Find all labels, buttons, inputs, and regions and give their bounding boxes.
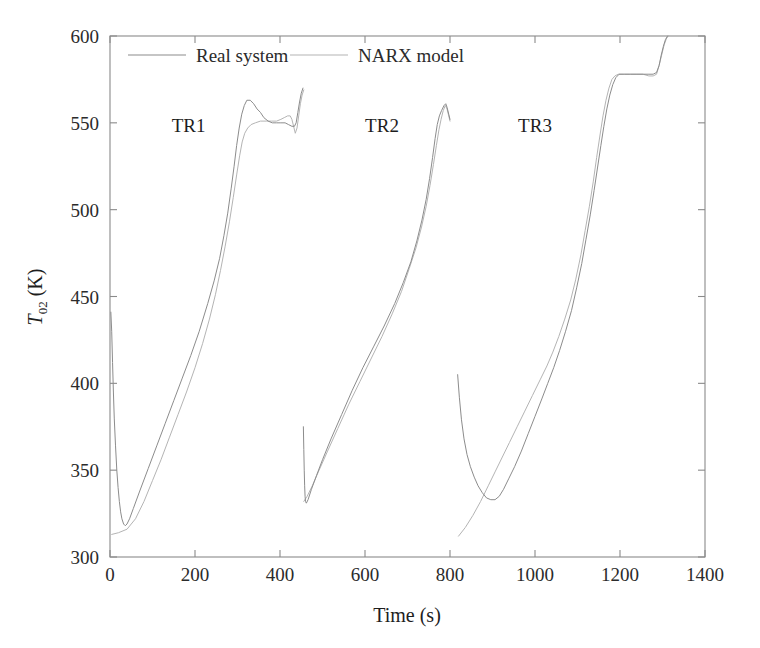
y-axis-title: T02 (K) [24,269,50,326]
y-tick-label: 550 [71,113,100,134]
annotation-tr1: TR1 [172,115,206,136]
annotation-tr3: TR3 [518,115,552,136]
series-annotations-group: TR1TR2TR3 [172,115,552,136]
y-tick-label: 500 [71,200,100,221]
data-line-tr1 [112,90,304,535]
y-tick-label: 350 [71,460,100,481]
annotation-tr2: TR2 [365,115,399,136]
x-axis-title: Time (s) [373,604,441,627]
y-tick-label: 400 [71,373,100,394]
legend-label-narx-model: NARX model [358,45,464,66]
x-tick-label: 1400 [686,564,724,585]
chart-canvas: 0200400600800100012001400 30035040045050… [0,0,760,648]
y-axis-title-subscript: 02 [35,301,50,314]
y-tick-label: 600 [71,26,100,47]
legend: Real systemNARX model [128,45,464,66]
y-tick-label: 300 [71,547,100,568]
figure-container: 0200400600800100012001400 30035040045050… [0,0,760,648]
x-tick-label: 200 [181,564,210,585]
data-line-tr1 [111,88,303,526]
data-line-tr2 [304,105,450,501]
x-tick-labels-group: 0200400600800100012001400 [105,564,724,585]
data-line-tr3 [458,36,668,500]
legend-label-real-system: Real system [196,45,289,66]
x-tick-label: 1000 [516,564,554,585]
y-axis-title-units: (K) [24,269,47,302]
x-tick-label: 800 [436,564,465,585]
data-line-tr3 [459,36,669,536]
series-real-system [111,36,668,526]
x-tick-label: 400 [266,564,295,585]
x-tick-label: 1200 [601,564,639,585]
y-tick-labels-group: 300350400450500550600 [71,26,100,568]
x-tick-label: 600 [351,564,380,585]
y-tick-label: 450 [71,287,100,308]
data-line-tr2 [303,104,450,503]
svg-text:T02 (K): T02 (K) [24,269,50,326]
x-tick-label: 0 [105,564,115,585]
series-narx-model [112,36,669,536]
